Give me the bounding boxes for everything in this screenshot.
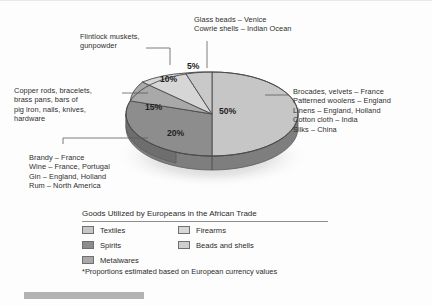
legend-swatch-spirits <box>82 241 94 249</box>
slice-label-firearms: 10% <box>160 74 177 84</box>
legend-item-metalwares: Metalwares <box>82 256 139 265</box>
callout-spirits-line-3: Gin – England, Holland <box>29 172 110 181</box>
chart-legend: Goods Utilized by Europeans in the Afric… <box>82 209 382 272</box>
pie-chart: 50% 20% 15% 10% 5% Glass beads – Venice … <box>0 1 432 201</box>
chart-footnote: *Proportions estimated based on European… <box>82 267 277 276</box>
callout-textiles-line-1: Brocades, velvets – France <box>293 87 391 96</box>
leader-line-firearms <box>146 48 170 65</box>
legend-item-beads-and-shells: Beads and shells <box>178 241 254 250</box>
legend-item-firearms: Firearms <box>178 226 226 235</box>
callout-metalwares-line-1: Copper rods, bracelets, <box>14 86 92 95</box>
slice-label-beads: 5% <box>187 61 199 71</box>
legend-item-textiles: Textiles <box>82 226 125 235</box>
legend-swatch-beads-and-shells <box>178 241 190 249</box>
callout-metalwares-line-2: brass pans, bars of <box>14 95 92 104</box>
legend-label-metalwares: Metalwares <box>100 256 139 265</box>
callout-metalwares: Copper rods, bracelets, brass pans, bars… <box>14 86 92 124</box>
legend-swatch-metalwares <box>82 256 94 264</box>
callout-spirits: Brandy – France Wine – France, Portugal … <box>29 153 110 191</box>
legend-item-spirits: Spirits <box>82 241 121 250</box>
slice-label-metalwares: 15% <box>145 102 162 112</box>
legend-label-spirits: Spirits <box>100 241 121 250</box>
slice-label-spirits: 20% <box>167 128 184 138</box>
slice-label-textiles: 50% <box>219 106 236 116</box>
callout-spirits-line-2: Wine – France, Portugal <box>29 162 110 171</box>
callout-firearms-line-1: Flintlock muskets, <box>80 32 140 41</box>
callout-metalwares-line-3: pig iron, nails, knives, <box>14 105 92 114</box>
callout-textiles: Brocades, velvets – France Patterned woo… <box>293 87 391 134</box>
callout-spirits-line-1: Brandy – France <box>29 153 110 162</box>
legend-label-textiles: Textiles <box>100 226 125 235</box>
callout-textiles-line-3: Linens – England, Holland <box>293 106 391 115</box>
legend-item-list: Textiles Spirits Metalwares Firearms Bea… <box>82 226 382 272</box>
bottom-accent-bar <box>24 292 144 299</box>
legend-label-beads-and-shells: Beads and shells <box>196 241 254 250</box>
callout-textiles-line-2: Patterned woolens – England <box>293 96 391 105</box>
callout-beads-line-1: Glass beads – Venice <box>194 15 292 24</box>
legend-title: Goods Utilized by Europeans in the Afric… <box>82 209 328 222</box>
callout-firearms-line-2: gunpowder <box>80 41 140 50</box>
legend-label-firearms: Firearms <box>196 226 226 235</box>
callout-textiles-line-4: Cotton cloth – India <box>293 115 391 124</box>
callout-beads-and-shells: Glass beads – Venice Cowrie shells – Ind… <box>194 15 292 34</box>
callout-textiles-line-5: Silks – China <box>293 125 391 134</box>
figure-root: 50% 20% 15% 10% 5% Glass beads – Venice … <box>0 0 432 306</box>
callout-firearms: Flintlock muskets, gunpowder <box>80 32 140 51</box>
legend-swatch-firearms <box>178 226 190 234</box>
callout-metalwares-line-4: hardware <box>14 114 92 123</box>
legend-swatch-textiles <box>82 226 94 234</box>
callout-beads-line-2: Cowrie shells – Indian Ocean <box>194 24 292 33</box>
callout-spirits-line-4: Rum – North America <box>29 181 110 190</box>
